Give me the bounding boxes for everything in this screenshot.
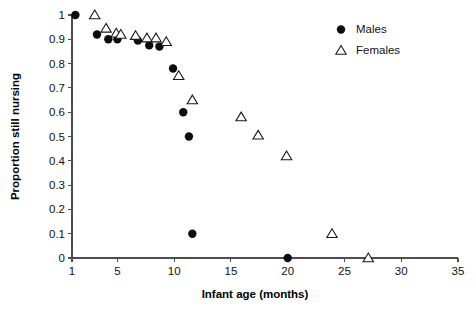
males-data-point — [284, 254, 292, 262]
y-tick-label: 0.4 — [49, 155, 66, 167]
legend-label-females: Females — [356, 44, 400, 56]
females-data-point — [253, 130, 263, 139]
males-data-point — [93, 30, 101, 38]
scatter-plot-svg: 00.10.20.30.40.50.60.70.80.9115101520253… — [0, 0, 476, 310]
chart-figure: 00.10.20.30.40.50.60.70.80.9115101520253… — [0, 0, 476, 310]
legend-label-males: Males — [356, 23, 387, 35]
males-data-point — [188, 230, 196, 238]
y-axis-title: Proportion still nursing — [9, 73, 21, 200]
males-data-point — [71, 11, 79, 19]
y-tick-label: 0.2 — [49, 203, 65, 215]
y-tick-label: 0.9 — [49, 33, 65, 45]
x-tick-label: 5 — [114, 265, 120, 277]
x-tick-label: 1 — [69, 265, 75, 277]
females-data-point — [130, 31, 140, 40]
y-tick-label: 0.6 — [49, 106, 65, 118]
males-data-point — [145, 41, 153, 49]
x-tick-label: 35 — [452, 265, 465, 277]
y-tick-label: 0.1 — [49, 228, 65, 240]
females-data-point — [101, 23, 111, 32]
females-data-point — [363, 253, 373, 262]
females-data-point — [236, 112, 246, 121]
females-data-point — [151, 33, 161, 42]
y-tick-label: 0.7 — [49, 82, 65, 94]
males-data-point — [185, 132, 193, 140]
y-tick-label: 0.3 — [49, 179, 65, 191]
legend-marker-females — [336, 46, 346, 55]
x-tick-label: 25 — [338, 265, 351, 277]
x-axis-title: Infant age (months) — [202, 288, 309, 300]
females-data-point — [90, 10, 100, 19]
y-tick-label: 0 — [59, 252, 65, 264]
females-data-point — [187, 95, 197, 104]
x-tick-label: 20 — [281, 265, 294, 277]
y-tick-label: 0.5 — [49, 131, 65, 143]
x-tick-label: 10 — [168, 265, 181, 277]
y-tick-label: 0.8 — [49, 58, 65, 70]
x-tick-label: 30 — [395, 265, 408, 277]
females-data-point — [327, 229, 337, 238]
x-tick-label: 15 — [225, 265, 238, 277]
females-data-point — [281, 151, 291, 160]
y-tick-label: 1 — [59, 9, 65, 21]
legend-marker-males — [337, 25, 345, 33]
males-data-point — [179, 108, 187, 116]
males-data-point — [169, 64, 177, 72]
females-data-point — [161, 37, 171, 46]
females-data-point — [142, 33, 152, 42]
